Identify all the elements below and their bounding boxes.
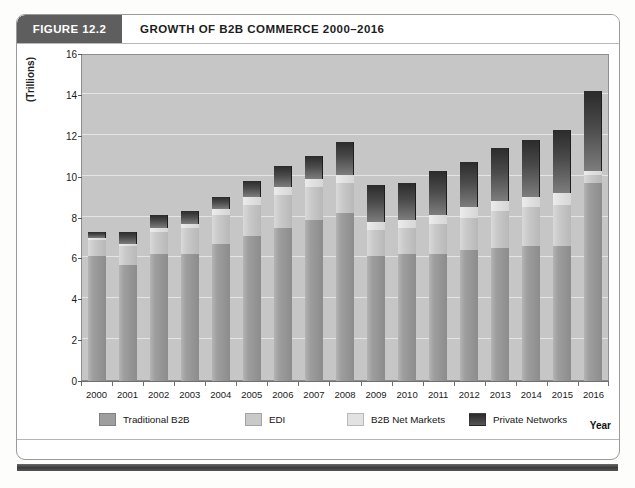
legend-swatch bbox=[347, 413, 364, 426]
chart-legend: Traditional B2BEDIB2B Net MarketsPrivate… bbox=[17, 405, 620, 439]
bar-segment bbox=[181, 254, 199, 381]
legend-item[interactable]: Private Networks bbox=[469, 413, 567, 426]
bar-segment bbox=[274, 166, 292, 186]
x-axis-tick-label: 2012 bbox=[459, 389, 480, 400]
x-axis-tickmark bbox=[298, 382, 299, 386]
bar-segment bbox=[305, 220, 323, 381]
y-axis-tick-label: 6 bbox=[51, 253, 77, 264]
bar-segment bbox=[460, 162, 478, 207]
legend-item[interactable]: Traditional B2B bbox=[99, 413, 190, 426]
bar-segment bbox=[274, 195, 292, 228]
bar-column bbox=[584, 54, 602, 381]
x-axis-tick-label: 2000 bbox=[86, 389, 107, 400]
bar-segment bbox=[212, 244, 230, 381]
x-axis-tick-label: 2015 bbox=[552, 389, 573, 400]
bar-series-container bbox=[81, 54, 609, 381]
figure-title: GROWTH OF B2B COMMERCE 2000–2016 bbox=[122, 15, 620, 43]
y-axis-tickmark bbox=[78, 218, 82, 219]
legend-label: B2B Net Markets bbox=[371, 414, 445, 425]
figure-frame: FIGURE 12.2 GROWTH OF B2B COMMERCE 2000–… bbox=[16, 14, 620, 460]
x-axis-tick-label: 2002 bbox=[148, 389, 169, 400]
bar-segment bbox=[429, 171, 447, 216]
legend-swatch bbox=[99, 413, 116, 426]
bar-column bbox=[243, 54, 261, 381]
bar-segment bbox=[336, 213, 354, 381]
figure-number-tag: FIGURE 12.2 bbox=[17, 15, 122, 43]
x-axis-tick-label: 2008 bbox=[334, 389, 355, 400]
x-axis-tickmark bbox=[423, 382, 424, 386]
bar-segment bbox=[88, 232, 106, 238]
y-axis-tickmark bbox=[78, 299, 82, 300]
x-axis-tickmark bbox=[485, 382, 486, 386]
bar-segment bbox=[181, 228, 199, 255]
bar-segment bbox=[491, 248, 509, 381]
x-axis-tickmark bbox=[174, 382, 175, 386]
bar-segment bbox=[243, 197, 261, 205]
legend-label: EDI bbox=[269, 414, 285, 425]
y-axis-tick-label: 12 bbox=[51, 130, 77, 141]
legend-swatch bbox=[469, 413, 486, 426]
legend-label: Private Networks bbox=[493, 414, 567, 425]
bar-column bbox=[181, 54, 199, 381]
bar-column bbox=[274, 54, 292, 381]
x-axis-tickmark bbox=[143, 382, 144, 386]
bar-segment bbox=[305, 187, 323, 220]
bar-segment bbox=[491, 211, 509, 248]
bar-segment bbox=[336, 142, 354, 175]
bar-segment bbox=[150, 232, 168, 254]
legend-item[interactable]: B2B Net Markets bbox=[347, 413, 445, 426]
x-axis-tick-label: 2004 bbox=[210, 389, 231, 400]
figure-page: FIGURE 12.2 GROWTH OF B2B COMMERCE 2000–… bbox=[0, 0, 635, 488]
bar-segment bbox=[212, 209, 230, 215]
bar-column bbox=[336, 54, 354, 381]
x-axis-tick-label: 2011 bbox=[428, 389, 448, 400]
y-axis-tick-label: 10 bbox=[51, 171, 77, 182]
bar-segment bbox=[460, 218, 478, 251]
bar-segment bbox=[367, 185, 385, 222]
bar-segment bbox=[491, 201, 509, 211]
y-axis-title: (Trillions) bbox=[25, 86, 36, 102]
bar-segment bbox=[243, 205, 261, 236]
bar-column bbox=[212, 54, 230, 381]
x-axis-tickmark bbox=[516, 382, 517, 386]
bar-segment bbox=[305, 156, 323, 178]
bar-segment bbox=[553, 205, 571, 246]
legend-item[interactable]: EDI bbox=[245, 413, 285, 426]
bar-segment bbox=[522, 207, 540, 246]
bar-segment bbox=[584, 171, 602, 175]
legend-swatch bbox=[245, 413, 262, 426]
bar-column bbox=[491, 54, 509, 381]
bar-segment bbox=[150, 228, 168, 232]
x-axis-tickmark bbox=[236, 382, 237, 386]
bar-segment bbox=[336, 175, 354, 183]
x-axis-tickmark bbox=[578, 382, 579, 386]
y-axis-ticks: 0246810121416 bbox=[45, 54, 77, 381]
y-axis-tickmark bbox=[78, 340, 82, 341]
bar-segment bbox=[88, 256, 106, 381]
bar-segment bbox=[398, 254, 416, 381]
x-axis-tickmarks bbox=[81, 382, 609, 387]
x-axis-tick-label: 2005 bbox=[241, 389, 262, 400]
x-axis-tickmark bbox=[454, 382, 455, 386]
x-axis-tickmark bbox=[112, 382, 113, 386]
bar-column bbox=[119, 54, 137, 381]
y-axis-tickmark bbox=[78, 381, 82, 382]
bar-column bbox=[88, 54, 106, 381]
y-axis-tick-label: 2 bbox=[51, 335, 77, 346]
y-axis-tickmark bbox=[78, 136, 82, 137]
bar-segment bbox=[491, 148, 509, 201]
bar-segment bbox=[119, 246, 137, 264]
bar-segment bbox=[584, 175, 602, 183]
x-axis-tick-label: 2001 bbox=[117, 389, 138, 400]
y-axis-tick-label: 16 bbox=[51, 49, 77, 60]
bar-segment bbox=[522, 140, 540, 197]
bar-segment bbox=[88, 238, 106, 240]
bar-segment bbox=[398, 220, 416, 228]
x-axis-tick-label: 2010 bbox=[397, 389, 418, 400]
x-axis-tick-label: 2016 bbox=[583, 389, 604, 400]
bar-segment bbox=[305, 179, 323, 187]
bar-segment bbox=[553, 130, 571, 193]
bar-column bbox=[367, 54, 385, 381]
x-axis-tick-label: 2003 bbox=[179, 389, 200, 400]
y-axis-tickmark bbox=[78, 177, 82, 178]
